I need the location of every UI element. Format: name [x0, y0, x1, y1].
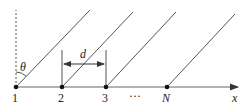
label-point-2: 2: [58, 92, 64, 104]
point-2: [60, 85, 65, 90]
ray-1: [16, 10, 90, 87]
ellipsis: ···: [129, 90, 141, 102]
label-point-N: N: [162, 92, 170, 104]
label-point-1: 1: [12, 92, 18, 104]
label-point-3: 3: [102, 92, 108, 104]
point-3: [104, 85, 109, 90]
axis-label-x: x: [232, 92, 237, 104]
diagram-canvas: [0, 0, 248, 108]
ray-2: [62, 12, 133, 87]
ray-N: [167, 14, 235, 87]
ray-3: [106, 12, 176, 87]
spacing-label-d: d: [80, 48, 86, 60]
point-1: [14, 85, 19, 90]
angle-label-theta: θ: [20, 61, 26, 73]
point-N: [165, 85, 170, 90]
